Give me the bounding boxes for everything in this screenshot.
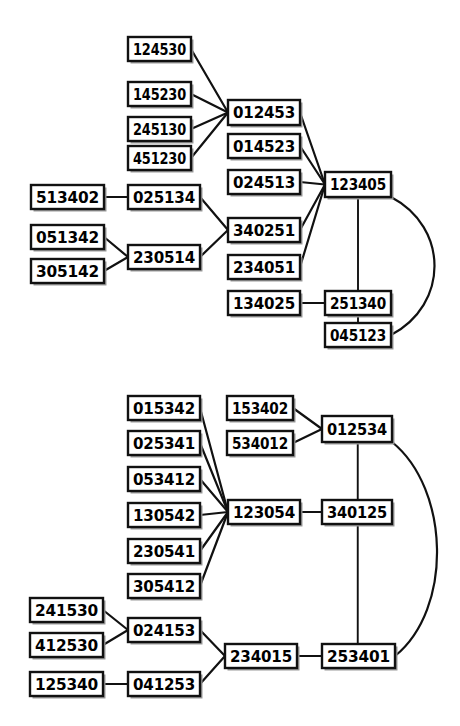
- node-label: 451230: [133, 149, 186, 168]
- node-123054[interactable]: 123054: [228, 500, 303, 527]
- node-124530[interactable]: 124530: [128, 37, 194, 64]
- node-label: 014523: [233, 137, 295, 156]
- node-label: 340125: [327, 503, 387, 522]
- node-230514[interactable]: 230514: [128, 245, 203, 272]
- permutation-lattice-figure: 1245301452302451304512305134020251340513…: [0, 0, 460, 726]
- node-234015[interactable]: 234015: [225, 644, 300, 671]
- node-024513[interactable]: 024513: [228, 170, 303, 197]
- edge-130542-123054: [200, 512, 228, 515]
- node-label: 123405: [330, 175, 386, 194]
- edge-051342-230514: [104, 237, 128, 257]
- node-label: 245130: [133, 120, 186, 139]
- node-305142[interactable]: 305142: [31, 259, 107, 286]
- edge-024513-123405: [300, 182, 325, 185]
- edge-025134-340251: [200, 197, 228, 230]
- node-234051[interactable]: 234051: [228, 255, 303, 282]
- node-label: 024513: [233, 173, 295, 192]
- node-label: 134025: [233, 294, 295, 313]
- node-251340[interactable]: 251340: [325, 291, 394, 318]
- edge-012453-123405: [300, 113, 325, 185]
- node-label: 025134: [133, 188, 195, 207]
- edge-012534-253401: [392, 442, 437, 656]
- node-label: 015342: [133, 399, 195, 418]
- node-label: 305142: [36, 262, 99, 281]
- node-label: 024153: [133, 621, 195, 640]
- node-label: 125340: [35, 675, 98, 694]
- node-label: 534012: [232, 434, 288, 453]
- edge-451230-012453: [191, 113, 228, 159]
- node-134025[interactable]: 134025: [228, 291, 303, 318]
- node-513402[interactable]: 513402: [31, 185, 107, 212]
- node-041253[interactable]: 041253: [128, 672, 203, 699]
- edge-024153-234015: [200, 630, 225, 656]
- edge-305142-230514: [104, 257, 128, 271]
- node-340251[interactable]: 340251: [228, 218, 303, 245]
- edge-534012-012534: [293, 429, 322, 443]
- edge-123405-045123: [391, 197, 435, 335]
- node-241530[interactable]: 241530: [30, 598, 106, 625]
- node-label: 230514: [133, 248, 195, 267]
- node-253401[interactable]: 253401: [322, 644, 398, 671]
- node-label: 130542: [133, 506, 195, 525]
- node-label: 305412: [133, 577, 195, 596]
- node-125340[interactable]: 125340: [30, 672, 106, 699]
- node-025134[interactable]: 025134: [128, 185, 203, 212]
- node-130542[interactable]: 130542: [128, 503, 203, 530]
- node-label: 253401: [327, 647, 390, 666]
- node-145230[interactable]: 145230: [128, 82, 194, 109]
- edge-234051-123405: [300, 185, 325, 268]
- node-012453[interactable]: 012453: [228, 100, 303, 128]
- edge-241530-024153: [103, 610, 128, 630]
- node-245130[interactable]: 245130: [128, 117, 194, 144]
- node-451230[interactable]: 451230: [128, 146, 194, 173]
- node-label: 025341: [133, 434, 195, 453]
- node-534012[interactable]: 534012: [227, 431, 296, 458]
- node-045123[interactable]: 045123: [325, 323, 394, 350]
- node-053412[interactable]: 053412: [128, 467, 203, 494]
- edge-412530-024153: [103, 630, 128, 645]
- lattice-svg-canvas: 1245301452302451304512305134020251340513…: [0, 0, 460, 726]
- node-label: 012534: [327, 420, 387, 439]
- node-412530[interactable]: 412530: [30, 633, 106, 660]
- node-305412[interactable]: 305412: [128, 574, 203, 601]
- node-label: 234015: [230, 647, 292, 666]
- edge-153402-012534: [293, 408, 322, 429]
- node-label: 045123: [330, 326, 386, 345]
- edge-025341-123054: [200, 443, 228, 512]
- node-label: 230541: [133, 542, 195, 561]
- edge-305412-123054: [200, 512, 228, 586]
- node-230541[interactable]: 230541: [128, 539, 203, 566]
- node-123405[interactable]: 123405: [325, 172, 394, 200]
- node-label: 123054: [233, 503, 295, 522]
- node-label: 241530: [35, 601, 98, 620]
- node-label: 340251: [233, 221, 295, 240]
- node-014523[interactable]: 014523: [228, 134, 303, 161]
- node-label: 051342: [36, 228, 99, 247]
- node-label: 041253: [133, 675, 195, 694]
- edge-041253-234015: [200, 656, 225, 684]
- node-label: 251340: [330, 294, 386, 313]
- node-012534[interactable]: 012534: [322, 416, 395, 445]
- edge-230541-123054: [200, 512, 228, 551]
- node-label: 124530: [133, 40, 186, 59]
- node-153402[interactable]: 153402: [227, 396, 296, 423]
- node-label: 412530: [35, 636, 98, 655]
- node-015342[interactable]: 015342: [128, 396, 203, 423]
- node-label: 153402: [232, 399, 288, 418]
- node-label: 513402: [36, 188, 99, 207]
- node-label: 234051: [233, 258, 295, 277]
- edge-230514-340251: [200, 230, 228, 257]
- node-label: 053412: [133, 470, 195, 489]
- node-label: 145230: [133, 85, 186, 104]
- node-label: 012453: [233, 103, 295, 122]
- node-024153[interactable]: 024153: [128, 618, 203, 645]
- node-025341[interactable]: 025341: [128, 431, 203, 458]
- node-340125[interactable]: 340125: [322, 500, 395, 527]
- node-051342[interactable]: 051342: [31, 225, 107, 252]
